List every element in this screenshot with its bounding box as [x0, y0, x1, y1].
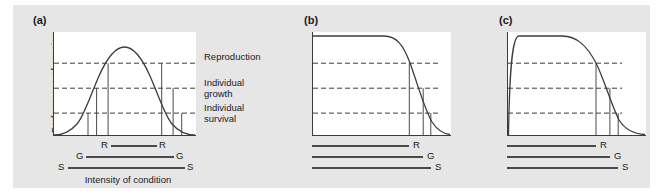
panel-a-threshold-survival-line2: survival: [204, 114, 236, 125]
panel-a-curve: [53, 32, 196, 136]
panel-c-range-survival: S: [507, 162, 657, 174]
panel-a-range-r-right-cap: R: [159, 139, 166, 150]
panel-b-range-g-bar: [312, 156, 423, 158]
panel-a-threshold-growth-line2: growth: [204, 89, 233, 100]
panel-b: (b) R G S: [285, 0, 480, 196]
panel-a-label: (a): [33, 14, 46, 26]
panel-a-threshold-reproduction: Reproduction: [204, 52, 261, 63]
panel-a-range-s-right-cap: S: [187, 161, 193, 172]
panel-b-plot-area: [312, 32, 451, 136]
panel-a-threshold-growth-line1: Individual: [204, 78, 244, 89]
panel-b-range-r-right-cap: R: [413, 139, 420, 150]
panel-c-range-s-right-cap: S: [622, 161, 628, 172]
panel-c-range-g-bar: [507, 156, 610, 158]
panel-b-range-r-bar: [312, 145, 409, 147]
panel-a-threshold-survival-line1: Individual: [204, 103, 244, 114]
panel-c-range-r-right-cap: R: [600, 139, 607, 150]
panel-c-curve: [507, 32, 646, 136]
panel-c-label: (c): [499, 14, 512, 26]
panel-a-range-s-bar: [68, 167, 185, 169]
panel-c: (c) R G S: [480, 0, 668, 196]
panel-a-range-g-bar: [86, 156, 174, 158]
panel-a-range-s-left-cap: S: [58, 161, 64, 172]
panel-a-range-g-right-cap: G: [176, 150, 183, 161]
panel-c-range-r-bar: [507, 145, 596, 147]
panel-a-range-g-left-cap: G: [76, 150, 83, 161]
panel-a-range-r-left-cap: R: [101, 139, 108, 150]
panel-a-plot-area: [53, 32, 196, 136]
panel-b-range-survival: S: [312, 162, 462, 174]
panel-b-range-s-bar: [312, 167, 431, 169]
panel-a: (a) Performance of species Reproduction …: [13, 0, 303, 196]
panel-a-range-survival: S S: [53, 162, 203, 174]
panel-a-range-r-bar: [111, 145, 157, 147]
panel-b-curve: [312, 32, 451, 136]
panel-b-range-g-right-cap: G: [427, 150, 434, 161]
panel-c-range-g-right-cap: G: [614, 150, 621, 161]
panel-c-range-s-bar: [507, 167, 618, 169]
panel-b-label: (b): [304, 14, 318, 26]
panel-a-x-axis-label: Intensity of condition: [53, 174, 203, 185]
panel-c-plot-area: [507, 32, 646, 136]
panel-b-range-s-right-cap: S: [435, 161, 441, 172]
